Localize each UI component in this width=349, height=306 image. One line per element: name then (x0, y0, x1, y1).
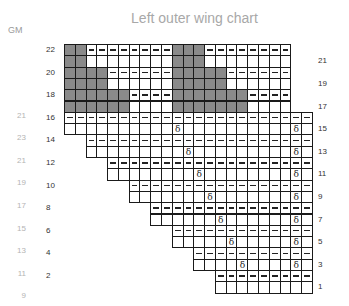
row-label-right: 15 (318, 124, 327, 133)
gm-stitch-count: 23 (6, 133, 26, 142)
gm-stitch-count: 21 (6, 156, 26, 165)
row-label-right: 19 (318, 79, 327, 88)
row-label-right: 7 (318, 215, 322, 224)
decrease-symbol: δ (216, 215, 226, 225)
row-label-left: 6 (46, 226, 66, 235)
row-label-right: 11 (318, 169, 326, 178)
decrease-symbol: δ (291, 192, 301, 202)
row-label-left: 8 (46, 203, 66, 212)
gm-stitch-count: 17 (6, 201, 26, 210)
knit-cell (301, 281, 313, 293)
row-label-right: 9 (318, 192, 322, 201)
row-label-left: 2 (46, 271, 66, 280)
decrease-symbol: δ (291, 260, 301, 270)
decrease-symbol: δ (194, 169, 204, 179)
row-label-left: 16 (46, 113, 66, 122)
row-label-right: 3 (318, 260, 322, 269)
decrease-symbol: δ (237, 260, 247, 270)
gm-stitch-count: 13 (6, 246, 26, 255)
decrease-symbol: δ (184, 147, 194, 157)
decrease-symbol: δ (227, 237, 237, 247)
chart-title: Left outer wing chart (0, 10, 349, 26)
row-label-right: 1 (318, 282, 322, 291)
row-label-left: 14 (46, 135, 66, 144)
row-label-left: 10 (46, 181, 66, 190)
row-label-right: 21 (318, 56, 327, 65)
decrease-symbol: δ (291, 124, 301, 134)
decrease-symbol: δ (173, 124, 183, 134)
decrease-symbol: δ (291, 147, 301, 157)
row-label-left: 12 (46, 158, 66, 167)
gm-header: GM (8, 25, 23, 35)
row-label-left: 22 (46, 45, 66, 54)
row-label-left: 20 (46, 68, 66, 77)
gm-stitch-count: 19 (6, 178, 26, 187)
row-label-left: 4 (46, 248, 66, 257)
decrease-symbol: δ (291, 237, 301, 247)
decrease-symbol: δ (291, 215, 301, 225)
gm-stitch-count: 21 (6, 111, 26, 120)
row-label-right: 13 (318, 147, 327, 156)
gm-stitch-count: 11 (6, 269, 26, 278)
gm-stitch-count: 9 (6, 291, 26, 300)
row-label-right: 5 (318, 237, 322, 246)
decrease-symbol: δ (205, 192, 215, 202)
row-label-right: 17 (318, 102, 327, 111)
gm-stitch-count: 15 (6, 224, 26, 233)
row-label-left: 18 (46, 90, 66, 99)
decrease-symbol: δ (291, 169, 301, 179)
